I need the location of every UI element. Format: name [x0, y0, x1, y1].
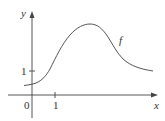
- curve-f: [24, 24, 153, 86]
- y-tick-label-1: 1: [21, 65, 27, 77]
- x-axis-label: x: [153, 99, 159, 111]
- origin-label: 0: [24, 99, 30, 111]
- function-graph: y x 0 1 1 f: [0, 0, 165, 121]
- y-axis-arrow-icon: [30, 11, 35, 18]
- x-tick-label-1: 1: [53, 99, 59, 111]
- y-axis-label: y: [20, 7, 26, 19]
- curve-label-f: f: [119, 34, 124, 46]
- x-axis-arrow-icon: [151, 93, 158, 98]
